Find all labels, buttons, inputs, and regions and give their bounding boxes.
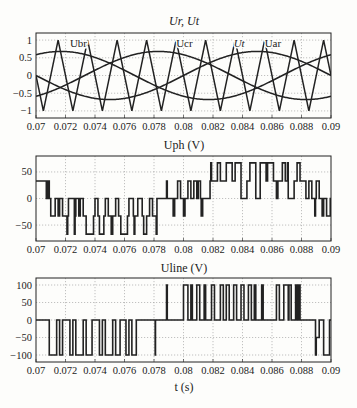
plot1-title: Ur, Ut — [34, 14, 334, 29]
y-tick-label: 50 — [22, 166, 33, 177]
x-tick-label: 0.09 — [322, 121, 340, 132]
x-tick-label: 0.074 — [83, 365, 107, 376]
x-tick-label: 0.072 — [54, 121, 78, 132]
series-ut — [36, 40, 331, 111]
y-tick-label: −100 — [10, 350, 32, 361]
x-tick-label: 0.084 — [231, 365, 255, 376]
annotation-ucr: Ucr — [176, 37, 193, 49]
x-tick-label: 0.082 — [201, 365, 225, 376]
x-tick-label: 0.09 — [322, 365, 340, 376]
plot2-title-text: Uph (V) — [164, 138, 204, 152]
x-tick-label: 0.084 — [231, 121, 255, 132]
annotation-uar: Uar — [265, 37, 282, 49]
plot3-title: Uline (V) — [34, 261, 334, 276]
x-tick-label: 0.082 — [201, 121, 225, 132]
y-tick-label: −0.5 — [13, 88, 32, 99]
y-tick-label: 50 — [22, 297, 33, 308]
x-tick-label: 0.072 — [54, 365, 78, 376]
x-tick-label: 0.08 — [174, 244, 192, 255]
y-tick-label: 100 — [16, 280, 32, 291]
figure-canvas: 0.070.0720.0740.0760.0780.080.0820.0840.… — [0, 0, 357, 408]
x-tick-label: 0.088 — [290, 365, 314, 376]
series-uph — [36, 163, 331, 234]
x-tick-label: 0.08 — [174, 365, 192, 376]
y-tick-label: −1 — [21, 105, 32, 116]
y-tick-label: −50 — [16, 220, 32, 231]
x-tick-label: 0.078 — [142, 365, 166, 376]
x-tick-label: 0.086 — [260, 365, 284, 376]
x-tick-label: 0.074 — [83, 244, 107, 255]
plot2-title: Uph (V) — [34, 138, 334, 153]
x-tick-label: 0.086 — [260, 244, 284, 255]
x-tick-label: 0.076 — [113, 121, 137, 132]
y-tick-label: 0 — [27, 315, 32, 326]
x-tick-label: 0.072 — [54, 244, 78, 255]
plot-ur-ut: 0.070.0720.0740.0760.0780.080.0820.0840.… — [13, 33, 340, 132]
x-tick-label: 0.07 — [27, 244, 45, 255]
y-tick-label: 0 — [27, 193, 32, 204]
x-tick-label: 0.07 — [27, 365, 45, 376]
y-tick-label: 0 — [27, 70, 32, 81]
x-tick-label: 0.08 — [174, 121, 192, 132]
plot-uph: 0.070.0720.0740.0760.0780.080.0820.0840.… — [16, 156, 341, 255]
x-tick-label: 0.088 — [290, 244, 314, 255]
x-axis-label-text: t (s) — [175, 380, 194, 394]
x-tick-label: 0.078 — [142, 244, 166, 255]
x-tick-label: 0.082 — [201, 244, 225, 255]
plot3-title-text: Uline (V) — [161, 261, 207, 275]
y-tick-label: 0.5 — [19, 52, 32, 63]
x-tick-label: 0.084 — [231, 244, 255, 255]
x-tick-label: 0.07 — [27, 121, 45, 132]
annotation-ubr: Ubr — [70, 37, 87, 49]
x-tick-label: 0.076 — [113, 365, 137, 376]
x-tick-label: 0.086 — [260, 121, 284, 132]
x-tick-label: 0.09 — [322, 244, 340, 255]
x-tick-label: 0.076 — [113, 244, 137, 255]
x-axis-label: t (s) — [34, 380, 334, 395]
plot1-title-text: Ur, Ut — [169, 14, 199, 28]
x-tick-label: 0.078 — [142, 121, 166, 132]
y-tick-label: −50 — [16, 332, 32, 343]
y-tick-label: 1 — [27, 35, 32, 46]
x-tick-label: 0.074 — [83, 121, 107, 132]
plot-uline: 0.070.0720.0740.0760.0780.080.0820.0840.… — [10, 278, 340, 376]
x-tick-label: 0.088 — [290, 121, 314, 132]
annotation-ut: Ut — [234, 37, 246, 49]
